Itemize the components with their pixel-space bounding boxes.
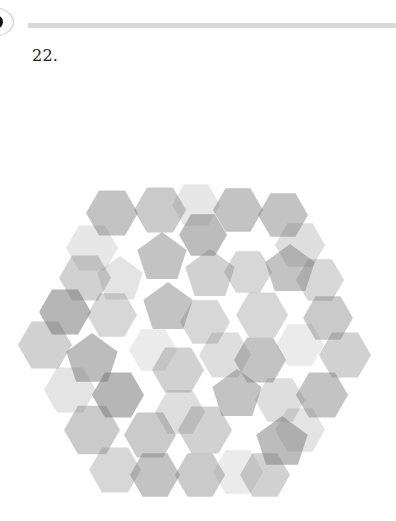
hexagon-collage-figure <box>0 150 396 521</box>
header-rule <box>28 23 396 28</box>
question-number: 22. <box>32 46 58 65</box>
hexagon-shape <box>236 293 288 338</box>
hexagon-shape <box>224 251 272 293</box>
hexagon-collage-svg <box>0 150 396 521</box>
pentagon-shape <box>137 232 186 279</box>
dot-in-oval-icon <box>0 16 3 28</box>
header-badge <box>0 7 14 37</box>
hexagon-shape <box>130 453 180 496</box>
